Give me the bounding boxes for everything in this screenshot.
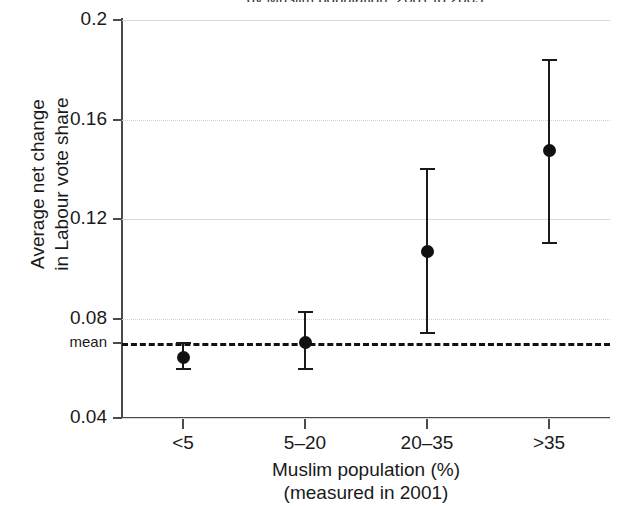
data-point-marker[interactable] [421, 245, 434, 258]
y-axis-tick-label: 0.08 [0, 307, 107, 329]
y-axis-tick [113, 318, 122, 320]
x-axis-title-main: Muslim population (%) [122, 458, 610, 481]
x-axis-tick-label: 20–35 [367, 432, 487, 454]
x-axis-title: Muslim population (%) (measured in 2001) [122, 458, 610, 504]
x-axis-tick [182, 419, 184, 429]
y-axis-tick [113, 19, 122, 21]
data-point-marker[interactable] [177, 351, 190, 364]
error-bar-cap-lower [420, 332, 435, 334]
mean-tick [113, 342, 122, 344]
gridline [122, 20, 610, 21]
x-axis-title-sub: (measured in 2001) [122, 481, 610, 504]
gridline [122, 319, 610, 320]
data-point-marker[interactable] [299, 336, 312, 349]
error-bar-cap-upper [542, 59, 557, 61]
gridline [122, 418, 610, 419]
chart-figure: by Muslim population, 2001 to 2005 Avera… [0, 0, 617, 506]
plot-area [122, 20, 610, 418]
y-axis-tick [113, 119, 122, 121]
chart-title: by Muslim population, 2001 to 2005 [120, 0, 610, 2]
y-axis-tick-label: 0.16 [0, 108, 107, 130]
y-axis-tick [113, 218, 122, 220]
gridline [122, 120, 610, 121]
error-bar-cap-lower [176, 368, 191, 370]
y-axis-tick [113, 417, 122, 419]
x-axis-tick [426, 419, 428, 429]
x-axis-tick-label: 5–20 [245, 432, 365, 454]
y-axis-tick-label: 0.04 [0, 406, 107, 428]
mean-axis-label: mean [0, 333, 107, 350]
x-axis-tick-label: >35 [489, 432, 609, 454]
x-axis-tick [304, 419, 306, 429]
x-axis-tick [548, 419, 550, 429]
y-axis-tick-label: 0.12 [0, 207, 107, 229]
data-point-marker[interactable] [543, 144, 556, 157]
y-axis-tick-label: 0.2 [0, 8, 107, 30]
error-bar-cap-upper [298, 311, 313, 313]
x-axis-tick-label: <5 [123, 432, 243, 454]
mean-reference-line [122, 343, 610, 346]
error-bar-cap-lower [542, 242, 557, 244]
error-bar-cap-upper [176, 342, 191, 344]
error-bar-cap-lower [298, 368, 313, 370]
gridline [122, 219, 610, 220]
error-bar-cap-upper [420, 168, 435, 170]
